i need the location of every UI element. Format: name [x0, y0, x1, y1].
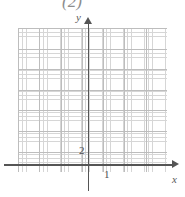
- y-axis-arrow-icon: [84, 17, 92, 24]
- x-axis-arrow-icon: [172, 160, 179, 168]
- figure-caption: (2): [52, 0, 92, 10]
- x-axis-label: x: [172, 174, 177, 185]
- y-axis-label: y: [76, 12, 81, 23]
- major-gridlines: [18, 28, 167, 172]
- y-axis-line: [88, 24, 90, 191]
- coordinate-grid: [18, 28, 167, 172]
- graph-figure: (2) y x 2 1: [0, 0, 185, 197]
- x-axis-tick-label-1: 1: [104, 169, 110, 180]
- y-axis-tick-label-2: 2: [79, 145, 85, 156]
